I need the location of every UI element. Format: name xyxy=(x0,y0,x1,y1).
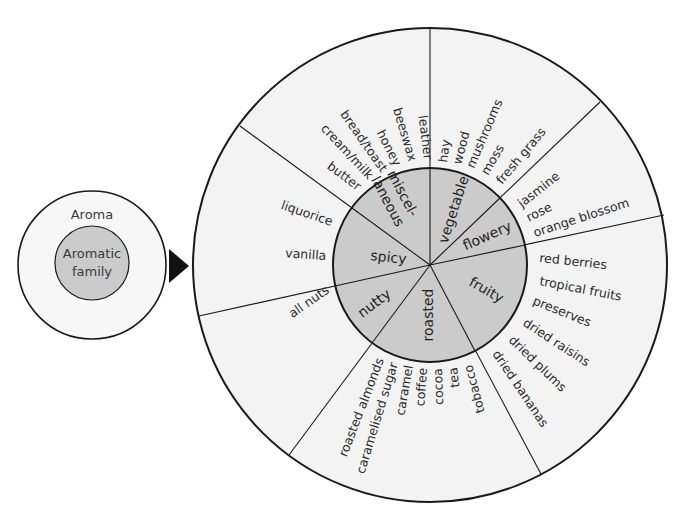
arrow-right-icon xyxy=(169,249,189,283)
aroma-label: coffee xyxy=(412,367,430,407)
legend-inner-label-line1: Aromatic xyxy=(63,246,121,261)
legend-outer-label: Aroma xyxy=(71,207,114,222)
aroma-label: cocoa xyxy=(430,368,446,405)
aroma-wheel-diagram: Aroma Aromatic family xyxy=(0,0,685,520)
legend-inner-label-line2: family xyxy=(72,264,112,279)
family-roasted: roasted xyxy=(420,289,436,342)
aroma-wheel: miscel- laneous vegetable flowery spicy … xyxy=(193,28,667,502)
legend-inner-circle xyxy=(55,226,129,300)
legend: Aroma Aromatic family xyxy=(18,191,166,339)
aroma-label: tea xyxy=(445,367,462,389)
aroma-label: vanilla xyxy=(285,245,327,263)
